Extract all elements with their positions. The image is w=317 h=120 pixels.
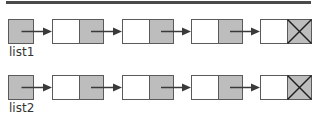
node-data-cell [123, 20, 150, 44]
list2-label: list2 [9, 101, 34, 115]
node-data-cell [192, 76, 219, 100]
arrow-head-icon [251, 28, 260, 36]
node-data-cell [53, 20, 80, 44]
arrow-head-icon [251, 84, 260, 92]
list-row-1 [9, 20, 312, 44]
list-row-2 [9, 76, 312, 100]
arrow-head-icon [182, 84, 191, 92]
node-data-cell [123, 76, 150, 100]
arrow-head-icon [113, 84, 122, 92]
node-data-cell [261, 20, 288, 44]
arrow-head-icon [43, 84, 52, 92]
node-data-cell [53, 76, 80, 100]
linked-list-diagram: list1 list2 [0, 0, 317, 120]
arrow-head-icon [182, 28, 191, 36]
arrow-head-icon [113, 28, 122, 36]
node-data-cell [192, 20, 219, 44]
arrow-head-icon [43, 28, 52, 36]
list1-label: list1 [9, 45, 34, 59]
node-data-cell [261, 76, 288, 100]
